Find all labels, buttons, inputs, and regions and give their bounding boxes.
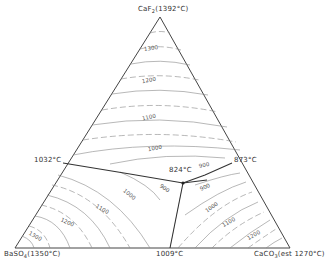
eutectic-right-label: 873°C <box>234 157 257 164</box>
ternary-diagram <box>0 0 327 262</box>
ternary-eutectic-label: 824°C <box>169 167 192 174</box>
caco3-isotherms <box>178 173 282 248</box>
vertex-caco3-label: CaCO3(est 1270°C) <box>254 251 325 259</box>
vertex-caf2-label: CaF2(1392°C) <box>138 6 188 14</box>
vertex-baso4-label: BaSO4(1350°C) <box>4 251 61 259</box>
eutectic-left-label: 1032°C <box>34 157 61 164</box>
triangle-outline <box>15 17 290 248</box>
eutectic-bottom-label: 1009°C <box>156 251 183 258</box>
ternary-eutectic-point <box>181 181 184 184</box>
